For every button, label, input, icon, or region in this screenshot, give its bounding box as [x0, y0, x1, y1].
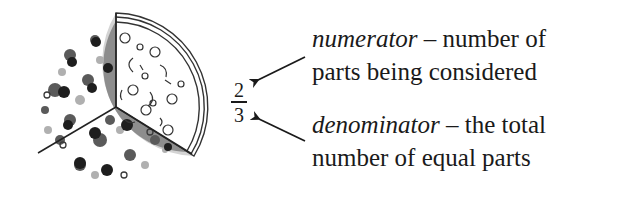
denominator-line1: the total — [465, 111, 546, 138]
denominator-arrow-icon — [259, 119, 305, 141]
numerator-annotation: numerator – number of parts being consid… — [312, 22, 546, 88]
fraction-numerator: 2 — [231, 80, 247, 100]
pizza-illustration — [0, 0, 240, 201]
denominator-line2: number of equal parts — [312, 141, 546, 174]
fraction-denominator: 3 — [231, 105, 247, 125]
denominator-annotation: denominator – the total number of equal … — [312, 108, 546, 174]
fraction-bar — [231, 101, 247, 103]
numerator-arrow-icon — [258, 57, 305, 80]
numerator-line2: parts being considered — [312, 55, 546, 88]
denominator-dash: – — [440, 111, 465, 138]
fraction: 2 3 — [231, 80, 247, 125]
numerator-dash: – — [418, 25, 443, 52]
numerator-line1: number of — [443, 25, 546, 52]
denominator-term: denominator — [312, 111, 440, 138]
numerator-term: numerator — [312, 25, 418, 52]
